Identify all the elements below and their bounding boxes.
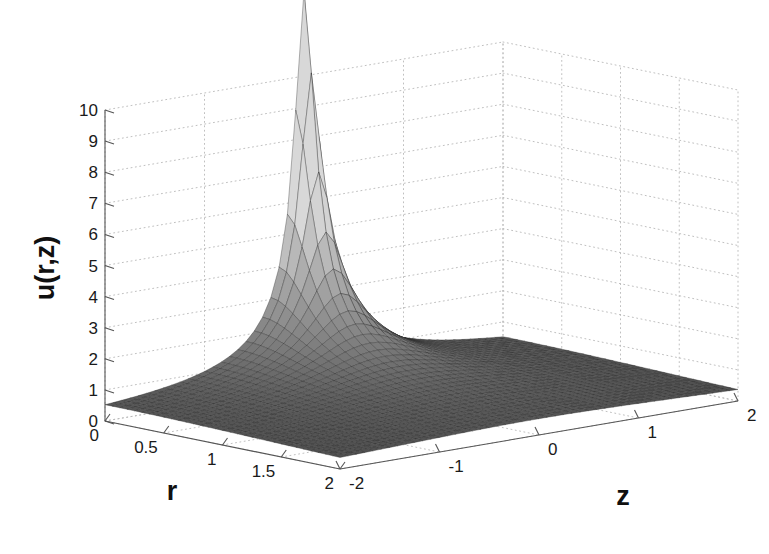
- tick-label-u-9: 9: [89, 132, 98, 151]
- surface-plot-figure: 01234567891000.511.52-2-1012 r z u(r,z): [0, 0, 769, 554]
- tick-label-u-8: 8: [89, 163, 98, 182]
- tick-label-r-1: 1: [207, 450, 216, 469]
- tick-label-u-3: 3: [89, 319, 98, 338]
- tick-label-u-4: 4: [89, 288, 98, 307]
- tick-label-u-10: 10: [79, 101, 98, 120]
- tick-u-9: [105, 141, 114, 144]
- tick-label-z--1: -1: [449, 457, 464, 476]
- tick-label-z--2: -2: [349, 474, 364, 493]
- axis-title-r: r: [167, 476, 178, 506]
- gridline: [503, 73, 738, 121]
- plot-canvas: 01234567891000.511.52-2-1012 r z u(r,z): [0, 0, 769, 554]
- axis-title-u: u(r,z): [30, 236, 60, 301]
- tick-label-z-0: 0: [548, 440, 557, 459]
- surface-layer: [105, 0, 738, 457]
- tick-label-u-5: 5: [89, 257, 98, 276]
- tick-u-1: [105, 390, 114, 393]
- tick-z-1: [635, 410, 639, 418]
- tick-label-z-1: 1: [648, 423, 657, 442]
- tick-u-8: [105, 172, 114, 175]
- tick-z-2: [734, 393, 738, 401]
- tick-u-3: [105, 328, 114, 331]
- tick-u-10: [105, 110, 114, 113]
- tick-u-5: [105, 266, 114, 269]
- tick-label-u-1: 1: [89, 381, 98, 400]
- tick-z--1: [436, 444, 440, 452]
- tick-label-r-1.5: 1.5: [252, 462, 276, 481]
- tick-label-z-2: 2: [747, 406, 756, 425]
- tick-label-u-6: 6: [89, 225, 98, 244]
- tick-label-u-2: 2: [89, 350, 98, 369]
- tick-label-r-0.5: 0.5: [134, 438, 158, 457]
- tick-u-4: [105, 297, 114, 300]
- tick-u-6: [105, 234, 114, 237]
- tick-label-u-7: 7: [89, 194, 98, 213]
- tick-label-r-2: 2: [325, 474, 334, 493]
- tick-label-r-0: 0: [90, 426, 99, 445]
- tick-z-0: [535, 427, 539, 435]
- tick-u-7: [105, 203, 114, 206]
- tick-u-2: [105, 359, 114, 362]
- axis-title-z: z: [616, 481, 630, 511]
- gridline: [503, 42, 738, 90]
- gridline: [503, 104, 738, 152]
